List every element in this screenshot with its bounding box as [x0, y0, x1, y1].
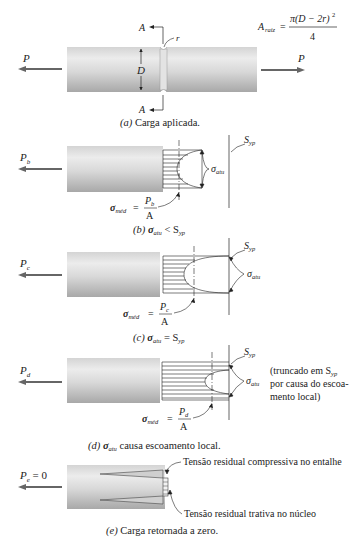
syp-label: Syp — [244, 240, 256, 252]
svg-text:por causa do escoa-: por causa do escoa- — [270, 378, 349, 389]
load-label: Pd — [19, 364, 31, 379]
notched-bar — [67, 47, 257, 92]
svg-text:σméd: σméd — [123, 308, 140, 320]
svg-text:=: = — [133, 202, 139, 213]
load-arrow-icon — [18, 166, 26, 172]
panel-e: Pe = 0 Tensão residual compressiva no en… — [18, 456, 342, 537]
sigma-atu-dimension — [200, 150, 209, 188]
svg-text:σméd: σméd — [110, 202, 127, 214]
sigma-med-formula: σméd = Pd A — [142, 403, 213, 432]
load-arrow-left — [18, 66, 62, 72]
svg-text:=: = — [280, 21, 286, 32]
stress-distribution — [163, 150, 202, 188]
svg-text:A: A — [180, 421, 188, 432]
svg-text:raiz: raiz — [265, 26, 276, 33]
caption-d: (d) σatu causa escoamento local. — [88, 440, 221, 452]
svg-text:=: = — [167, 413, 173, 424]
svg-text:mento local): mento local) — [270, 391, 320, 403]
syp-leader — [231, 356, 245, 364]
svg-text:2: 2 — [332, 11, 335, 18]
load-arrow-right — [261, 67, 305, 73]
stress-distribution — [163, 256, 229, 293]
svg-text:=: = — [148, 308, 154, 319]
syp-label: Syp — [244, 134, 256, 146]
panel-d: Pd σatu Syp (t — [18, 345, 349, 452]
caption-e: (e) Carga retornada a zero. — [106, 525, 218, 537]
sigma-atu-leaders — [229, 257, 244, 292]
load-arrow-icon — [18, 484, 26, 490]
panel-a: P P D A A r — [18, 11, 337, 129]
syp-label: Syp — [244, 346, 256, 358]
annotation-tensile: Tensão residual trativa no núcleo — [184, 508, 316, 519]
svg-text:A: A — [146, 210, 154, 221]
svg-text:σméd: σméd — [142, 413, 159, 425]
section-label-bottom: A — [138, 104, 146, 115]
syp-leader — [231, 144, 245, 152]
svg-text:Pc: Pc — [159, 301, 169, 313]
section-label-top: A — [138, 22, 146, 33]
svg-text:A: A — [257, 21, 265, 32]
stress-distribution — [162, 362, 229, 400]
sigma-atu-leaders — [229, 365, 244, 397]
load-label-left: P — [22, 52, 30, 64]
load-label: Pc — [19, 257, 31, 272]
bar — [67, 252, 160, 297]
load-label: Pe = 0 — [19, 469, 48, 484]
sigma-med-formula: σméd = Pc A — [123, 298, 195, 327]
svg-text:4: 4 — [310, 31, 315, 42]
annotation-compressive: Tensão residual compressiva no entalhe — [183, 456, 342, 467]
caption-c: (c) σatu = Syp — [133, 332, 185, 344]
truncation-note: (truncado em Syp por causa do escoa- men… — [270, 365, 349, 403]
svg-text:Pd: Pd — [178, 406, 189, 418]
load-arrow-icon — [18, 379, 26, 385]
svg-text:(truncado em Syp: (truncado em Syp — [270, 365, 338, 377]
radius-leader — [164, 38, 174, 47]
load-label: Pb — [19, 151, 31, 166]
svg-text:Pb: Pb — [144, 195, 155, 207]
area-formula: A raiz = π(D − 2r) 2 4 — [257, 11, 337, 42]
svg-text:A: A — [161, 316, 169, 327]
panel-c: Pc σatu Syp σméd = — [18, 238, 261, 344]
caption-b: (b) σatu < Syp — [133, 224, 186, 236]
bar — [67, 358, 160, 403]
sigma-atu-label: σatu — [246, 375, 260, 387]
sigma-med-formula: σméd = Pb A — [110, 192, 180, 221]
svg-text:π(D − 2r): π(D − 2r) — [290, 13, 330, 25]
load-label-right: P — [297, 52, 305, 64]
sigma-atu-label: σatu — [211, 163, 225, 175]
caption-a: (a) Carga aplicada. — [120, 117, 200, 129]
bar — [67, 465, 168, 509]
diameter-label: D — [136, 64, 145, 76]
panel-b: Pb σatu Syp — [18, 134, 256, 236]
radius-label: r — [176, 33, 180, 43]
bar — [67, 146, 163, 192]
figure-canvas: P P D A A r — [0, 0, 363, 539]
load-arrow-icon — [18, 272, 26, 278]
syp-leader — [231, 250, 245, 258]
sigma-atu-label: σatu — [247, 268, 261, 280]
